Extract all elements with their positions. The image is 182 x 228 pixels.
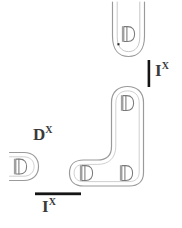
label-d-x-base: D	[33, 125, 45, 144]
tube-glyph-d	[80, 166, 92, 181]
tube-dot-marker	[117, 43, 119, 45]
half-capsule	[10, 153, 39, 181]
label-i-x-horizontal: IX	[42, 198, 56, 215]
diagram-canvas: DX IX IX	[0, 0, 182, 228]
label-i-x-vertical-base: I	[155, 61, 162, 80]
label-i-x-horizontal-base: I	[42, 197, 49, 216]
diagram-vector-layer	[0, 0, 182, 228]
label-i-x-horizontal-superscript: X	[49, 196, 56, 207]
label-d-x-superscript: X	[45, 124, 52, 135]
u-shaped-tube	[113, 2, 145, 57]
label-i-x-vertical: IX	[155, 62, 169, 79]
tube-glyph-d	[120, 166, 132, 181]
label-i-x-vertical-superscript: X	[162, 60, 169, 71]
tube-glyph-d	[122, 27, 134, 42]
horizontal-scale-bar	[35, 192, 81, 195]
vertical-scale-bar	[148, 60, 151, 87]
l-shaped-tube	[70, 87, 144, 187]
label-d-x: DX	[33, 126, 53, 143]
tube-glyph-d	[121, 96, 133, 111]
capsule-glyph-d	[14, 159, 26, 174]
